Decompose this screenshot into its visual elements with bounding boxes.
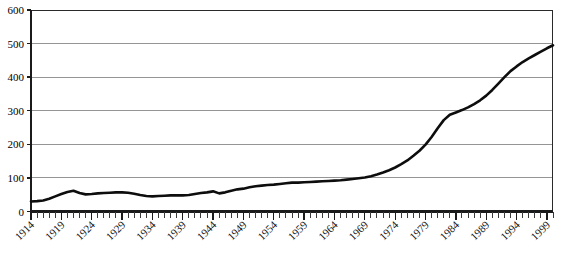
x-tick-label-1929: 1929 <box>103 218 127 242</box>
chart-canvas: 0100200300400500600 19141919192419291934… <box>0 0 570 263</box>
x-tick-labels: 1914191919241929193419391944194919541959… <box>12 218 552 242</box>
x-tick-label-1944: 1944 <box>194 218 218 242</box>
x-tick-label-1994: 1994 <box>498 218 522 242</box>
gridlines <box>31 10 553 178</box>
x-tick-label-1984: 1984 <box>437 218 461 242</box>
x-tick-label-1974: 1974 <box>377 218 401 242</box>
x-tick-label-1969: 1969 <box>346 218 370 242</box>
line-chart: 0100200300400500600 19141919192419291934… <box>0 0 570 263</box>
y-tick-label-500: 500 <box>8 38 25 50</box>
x-tick-label-1939: 1939 <box>164 218 188 242</box>
x-tick-label-1999: 1999 <box>528 218 552 242</box>
y-tick-label-100: 100 <box>8 172 25 184</box>
x-tick-label-1989: 1989 <box>468 218 492 242</box>
x-tick-label-1959: 1959 <box>286 218 310 242</box>
y-tick-label-0: 0 <box>19 206 25 218</box>
x-tick-label-1914: 1914 <box>12 218 36 242</box>
x-major-tick-marks <box>31 212 547 220</box>
x-tick-label-1924: 1924 <box>73 218 97 242</box>
y-tick-label-200: 200 <box>8 138 25 150</box>
x-tick-label-1954: 1954 <box>255 218 279 242</box>
y-tick-label-600: 600 <box>8 4 25 16</box>
x-tick-label-1964: 1964 <box>316 218 340 242</box>
y-tick-label-400: 400 <box>8 71 25 83</box>
x-tick-label-1949: 1949 <box>225 218 249 242</box>
x-tick-label-1934: 1934 <box>134 218 158 242</box>
x-tick-label-1919: 1919 <box>43 218 67 242</box>
x-tick-label-1979: 1979 <box>407 218 431 242</box>
y-tick-labels: 0100200300400500600 <box>8 4 25 218</box>
y-tick-label-300: 300 <box>8 105 25 117</box>
